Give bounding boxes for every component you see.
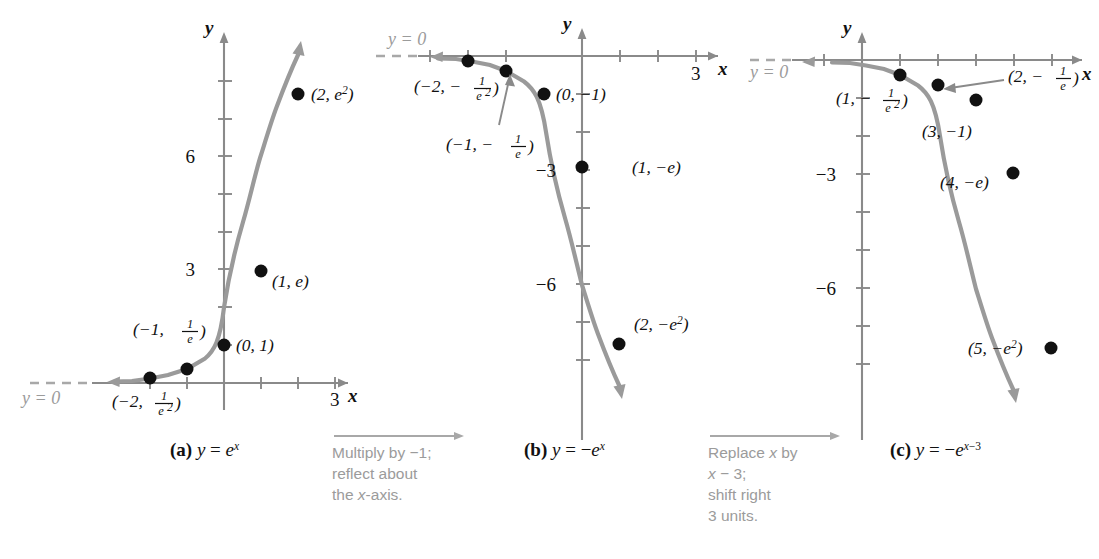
svg-text:e: e bbox=[187, 332, 193, 346]
point-label-a-2-e2: (2, e2) bbox=[311, 84, 354, 104]
svg-text:e: e bbox=[476, 89, 482, 103]
x-tick-label-3-a: 3 bbox=[330, 389, 340, 410]
svg-text:(−2,: (−2, bbox=[112, 391, 143, 411]
y-axis-label-c: y bbox=[841, 17, 852, 38]
svg-text:(1, −: (1, − bbox=[836, 88, 871, 108]
x-axis-arrowhead-a bbox=[338, 379, 348, 388]
svg-text:2: 2 bbox=[894, 98, 900, 110]
point-label-c-4-me: (4, −e) bbox=[940, 172, 989, 192]
point-label-a-1-e: (1, e) bbox=[272, 271, 309, 291]
svg-text:(c) y = −ex−3: (c) y = −ex−3 bbox=[890, 439, 981, 461]
point-label-c-5-me2: (5, −e2) bbox=[968, 338, 1023, 358]
transition-arrow-2-head bbox=[830, 432, 840, 440]
curve-arrowhead-down-b bbox=[614, 384, 626, 399]
exponential-curve-b bbox=[438, 59, 619, 386]
y-tick-label-3-a: 3 bbox=[186, 259, 196, 280]
x-axis-arrowhead-c bbox=[1072, 56, 1082, 65]
svg-text:(1, −e): (1, −e) bbox=[632, 157, 681, 177]
asymptote-label-a: y = 0 bbox=[20, 388, 60, 408]
svg-text:2: 2 bbox=[485, 86, 491, 98]
data-point-c-3 bbox=[970, 94, 983, 107]
asymptote-label-c: y = 0 bbox=[748, 62, 788, 82]
svg-text:e: e bbox=[515, 147, 521, 161]
x-axis-label-b: x bbox=[717, 58, 728, 79]
svg-text:1: 1 bbox=[187, 317, 193, 331]
y-axis-arrowhead-a bbox=[220, 32, 229, 43]
svg-text:2: 2 bbox=[167, 401, 173, 413]
y-tick-label-6-a: 6 bbox=[186, 146, 196, 167]
transition-note-1: Multiply by −1; reflect about the x-axis… bbox=[330, 424, 480, 534]
svg-text:(2, e2): (2, e2) bbox=[311, 84, 354, 104]
y-axis-label-a: y bbox=[203, 17, 214, 38]
data-point-b-1 bbox=[462, 55, 475, 68]
data-point-b-5 bbox=[613, 338, 626, 351]
x-axis-label-a: x bbox=[347, 385, 358, 406]
caption-b: (b) y = −ex bbox=[524, 439, 606, 461]
y-tick-label-m3-c: −3 bbox=[816, 164, 836, 185]
point-label-c-3-m1: (3, −1) bbox=[922, 121, 972, 141]
transition-1-line-2: reflect about bbox=[332, 465, 418, 482]
transition-1-line-3: the x-axis. bbox=[332, 486, 403, 503]
x-axis-arrowhead-b bbox=[708, 52, 718, 61]
exponential-transformations-figure: y x 3 6 3 y = 0 (0, 1) (1, e) (2, e2) (−… bbox=[0, 0, 1099, 559]
svg-text:e: e bbox=[1060, 79, 1066, 93]
data-point-c-2 bbox=[932, 79, 945, 92]
point-label-b-2-me2: (2, −e2) bbox=[634, 314, 689, 334]
point-label-a-m2: (−2, 1 e 2 ) bbox=[112, 389, 181, 418]
point-label-b-m2: (−2, − 1 e 2 ) bbox=[414, 74, 499, 103]
point-label-c-2: (2, − 1 e ) bbox=[1008, 64, 1079, 93]
transition-2-line-4: 3 units. bbox=[708, 507, 758, 524]
panel-a-graph: y x 3 6 3 y = 0 (0, 1) (1, e) (2, e2) (−… bbox=[0, 0, 366, 559]
point-label-c-1: (1, − 1 e 2 ) bbox=[836, 86, 908, 115]
point-label-b-m1: (−1, − 1 e ) bbox=[446, 132, 534, 161]
data-point-b-4 bbox=[576, 161, 589, 174]
svg-text:(a) y = ex: (a) y = ex bbox=[170, 439, 240, 461]
svg-text:(−2, −: (−2, − bbox=[414, 76, 461, 96]
caption-a: (a) y = ex bbox=[170, 439, 240, 461]
svg-text:(2, −e2): (2, −e2) bbox=[634, 314, 689, 334]
svg-text:1: 1 bbox=[1060, 64, 1066, 78]
svg-text:): ) bbox=[492, 78, 499, 98]
svg-text:(2, −: (2, − bbox=[1008, 66, 1043, 86]
transition-2-line-1: Replace x by bbox=[708, 444, 798, 461]
transition-arrow-1-head bbox=[454, 432, 464, 440]
data-point-a-5 bbox=[292, 88, 305, 101]
svg-text:): ) bbox=[199, 321, 206, 341]
data-point-a-2 bbox=[181, 363, 194, 376]
leader-arrowhead-c bbox=[943, 83, 956, 93]
data-point-b-3 bbox=[538, 88, 551, 101]
point-label-b-1-me: (1, −e) bbox=[632, 157, 681, 177]
data-point-c-5 bbox=[1045, 342, 1058, 355]
leader-line-b bbox=[499, 80, 509, 125]
svg-text:): ) bbox=[527, 136, 534, 156]
svg-text:(−1, −: (−1, − bbox=[446, 134, 493, 154]
svg-text:(4, −e): (4, −e) bbox=[940, 172, 989, 192]
y-tick-label-m6-b: −6 bbox=[536, 274, 556, 295]
y-tick-label-m3-b: −3 bbox=[536, 160, 556, 181]
transition-1-line-1: Multiply by −1; bbox=[332, 444, 432, 461]
svg-text:): ) bbox=[1072, 68, 1079, 88]
svg-text:1: 1 bbox=[515, 132, 521, 146]
leader-line-c bbox=[950, 80, 1004, 88]
curve-arrowhead-down-c bbox=[1008, 388, 1020, 403]
asymptote-label-b: y = 0 bbox=[386, 29, 426, 49]
y-axis-label-b: y bbox=[561, 13, 572, 34]
data-point-a-3 bbox=[218, 339, 231, 352]
svg-text:e: e bbox=[885, 101, 891, 115]
svg-text:): ) bbox=[174, 393, 181, 413]
transition-note-2: Replace x by x − 3; shift right 3 units. bbox=[706, 424, 856, 544]
point-label-a-0-1: (0, 1) bbox=[236, 335, 274, 355]
svg-text:(−1,: (−1, bbox=[133, 319, 164, 339]
data-point-a-1 bbox=[144, 372, 157, 385]
y-axis-arrowhead-c bbox=[858, 32, 867, 43]
svg-text:): ) bbox=[901, 90, 908, 110]
transition-2-line-2: x − 3; bbox=[707, 465, 746, 482]
svg-text:e: e bbox=[158, 404, 164, 418]
x-tick-label-3-b: 3 bbox=[691, 63, 701, 84]
y-tick-label-m6-c: −6 bbox=[816, 278, 836, 299]
data-point-a-4 bbox=[255, 265, 268, 278]
curve-arrowhead-left-b bbox=[430, 52, 443, 63]
caption-c: (c) y = −ex−3 bbox=[890, 439, 981, 461]
data-point-c-4 bbox=[1007, 167, 1020, 180]
svg-text:(1, e): (1, e) bbox=[272, 271, 309, 291]
